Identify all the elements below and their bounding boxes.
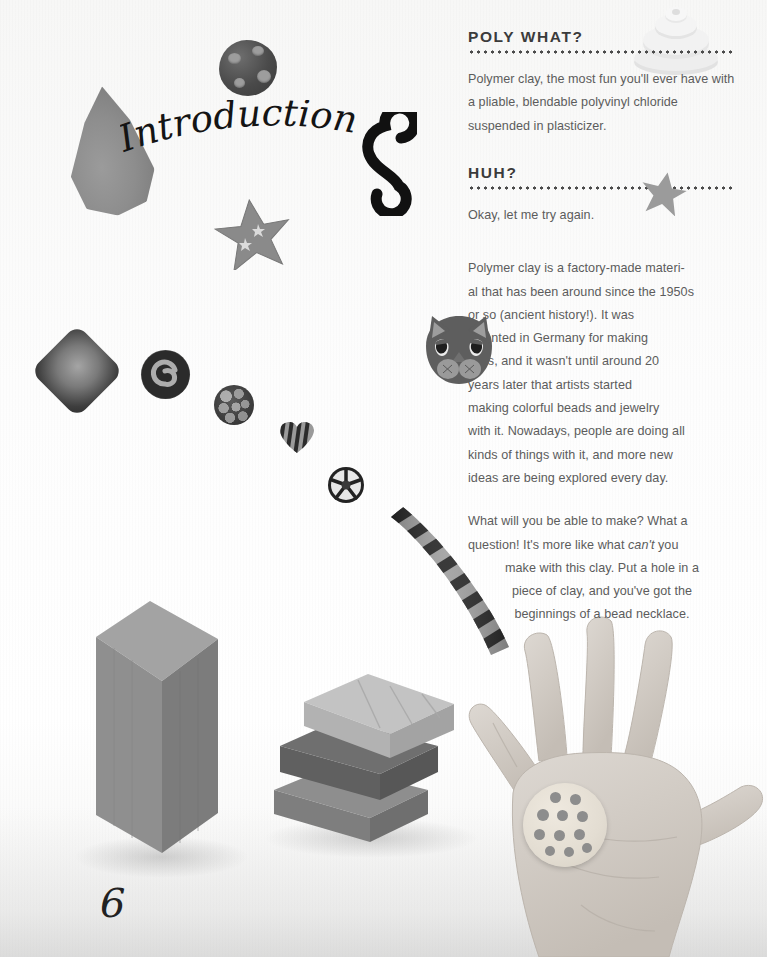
text-line: Polymer clay, the most fun you'll ever <box>468 72 677 86</box>
polka-dot-clay-disc <box>523 783 607 867</box>
paragraph-okay: Okay, let me try again. <box>468 204 736 227</box>
text-line-part: you <box>654 538 678 552</box>
text-line: Okay, let me try again. <box>468 208 594 222</box>
section-poly-what: POLY WHAT? Polymer clay, the most fun yo… <box>468 28 736 138</box>
text-line: make with this clay. Put a hole in a <box>468 557 736 580</box>
text-line: ideas are being explored every day. <box>468 467 736 490</box>
dotted-rule-poly-what <box>468 50 736 54</box>
paragraph-what-will-you-make: What will you be able to make? What a qu… <box>468 510 736 626</box>
striped-heart-bead <box>279 420 315 454</box>
page-title-script: Introduction <box>120 100 390 170</box>
text-line: Polymer clay is a factory-made materi- <box>468 257 736 280</box>
text-column: POLY WHAT? Polymer clay, the most fun yo… <box>468 28 736 627</box>
svg-text:Introduction: Introduction <box>120 100 360 161</box>
text-line-with-italic: question! It's more like what can't you <box>468 534 736 557</box>
text-line: invented in Germany for making <box>468 327 736 350</box>
text-line: or so (ancient history!). It was <box>468 304 736 327</box>
textured-round-bead <box>214 385 254 425</box>
text-line: al that has been around since the 1950s <box>468 281 736 304</box>
cat-face-bead <box>418 312 500 390</box>
page-title-text: Introduction <box>120 100 360 161</box>
spiral-round-bead <box>141 350 190 399</box>
text-line: What will you be able to make? What a <box>468 510 736 533</box>
stacked-clay-blocks <box>272 662 462 842</box>
text-line: beginnings of a bead necklace. <box>468 603 736 626</box>
paragraph-poly-what: Polymer clay, the most fun you'll ever h… <box>468 68 736 138</box>
dotted-rule-huh <box>468 186 736 190</box>
tall-clay-block <box>88 585 226 860</box>
text-line: kinds of things with it, and more new <box>468 444 736 467</box>
text-line: years later that artists started <box>468 374 736 397</box>
text-line: dolls, and it wasn't until around 20 <box>468 350 736 373</box>
section-heading-huh: HUH? <box>468 164 736 181</box>
five-point-star-bead <box>214 198 290 270</box>
spotted-round-bead <box>219 40 277 96</box>
section-heading-poly-what: POLY WHAT? <box>468 28 736 45</box>
text-line-part: question! It's more like what <box>468 538 628 552</box>
wheel-flower-bead <box>327 466 365 504</box>
gray-star-on-rule <box>639 170 687 216</box>
text-line: making colorful beads and jewelry <box>468 397 736 420</box>
text-line: with it. Nowadays, people are doing all <box>468 420 736 443</box>
text-emphasis: can't <box>628 538 654 552</box>
section-huh: HUH? Okay, let me try again. Polymer cla… <box>468 164 736 627</box>
page-number: 6 <box>100 880 125 926</box>
text-line: piece of clay, and you've got the <box>468 580 736 603</box>
paragraph-history: Polymer clay is a factory-made materi- a… <box>468 257 736 490</box>
